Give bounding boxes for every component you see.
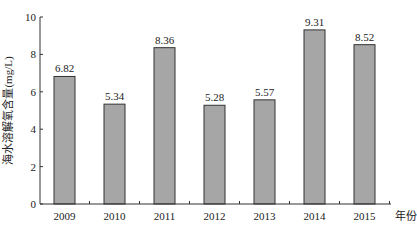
x-tick-label: 2009 <box>54 210 77 222</box>
bar-value-label: 8.36 <box>155 34 175 46</box>
bar-value-label: 9.31 <box>305 16 324 28</box>
x-tick-label: 2014 <box>304 210 327 222</box>
y-tick-label: 8 <box>31 48 37 60</box>
x-tick-label: 2012 <box>204 210 226 222</box>
bar-value-label: 5.28 <box>205 91 225 103</box>
bar-2010 <box>104 104 125 204</box>
bar-chart: 6.825.348.365.285.579.318.52 0246810 200… <box>0 0 417 233</box>
y-tick-label: 4 <box>31 123 37 135</box>
y-tick-label: 10 <box>25 11 37 23</box>
bar-value-label: 6.82 <box>55 62 74 74</box>
bar-value-label: 5.34 <box>105 90 125 102</box>
y-tick-label: 6 <box>31 86 37 98</box>
bar-value-label: 5.57 <box>255 86 275 98</box>
bar-2012 <box>204 105 225 204</box>
bars-group: 6.825.348.365.285.579.318.52 <box>54 16 375 204</box>
x-tick-label: 2010 <box>104 210 127 222</box>
x-tick-label: 2015 <box>354 210 377 222</box>
bar-value-label: 8.52 <box>355 31 374 43</box>
y-tick-label: 0 <box>31 198 37 210</box>
x-axis-title: 年份 <box>395 209 417 222</box>
bar-2009 <box>54 76 75 204</box>
x-tick-label: 2013 <box>254 210 277 222</box>
bar-2011 <box>154 48 175 204</box>
y-tick-label: 2 <box>31 161 37 173</box>
y-axis-title: 海水溶解氧含量(mg/L) <box>1 56 15 164</box>
x-tick-label: 2011 <box>154 210 176 222</box>
bar-2015 <box>354 45 375 204</box>
bar-2013 <box>254 100 275 204</box>
bar-2014 <box>304 30 325 204</box>
